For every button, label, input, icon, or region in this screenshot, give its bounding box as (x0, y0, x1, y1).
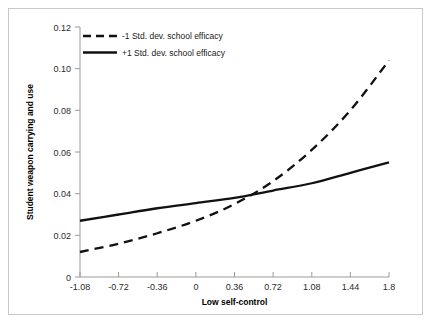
y-tick-label: 0.06 (53, 148, 71, 158)
series-line-plus-1-sd (80, 162, 389, 220)
x-tick-label: 1.44 (342, 282, 360, 292)
y-tick-label: 0.04 (53, 189, 71, 199)
y-tick-label: 0.02 (53, 231, 71, 241)
y-tick-label: 0.08 (53, 106, 71, 116)
x-tick-label: 0 (193, 282, 198, 292)
x-tick-label: 0.72 (264, 282, 282, 292)
x-tick-label: 0.36 (226, 282, 244, 292)
legend-label-minus-1-sd: -1 Std. dev. school efficacy (122, 31, 224, 41)
chart-canvas: 0.12 0.10 0.08 0.06 0.04 0.02 0 -1.08 -0… (0, 0, 432, 324)
y-tick-label: 0.10 (53, 64, 71, 74)
legend: -1 Std. dev. school efficacy +1 Std. dev… (83, 31, 226, 58)
x-tick-label: 1.08 (303, 282, 321, 292)
x-tick-marks (80, 272, 389, 277)
x-tick-label: -0.36 (147, 282, 168, 292)
chart-figure: 0.12 0.10 0.08 0.06 0.04 0.02 0 -1.08 -0… (0, 0, 432, 324)
y-tick-labels: 0.12 0.10 0.08 0.06 0.04 0.02 0 (53, 23, 71, 283)
series-line-minus-1-sd (80, 60, 389, 252)
x-tick-label: 1.8 (383, 282, 396, 292)
legend-label-plus-1-sd: +1 Std. dev. school efficacy (122, 48, 226, 58)
x-tick-label: -0.72 (108, 282, 129, 292)
x-axis-title: Low self-control (202, 297, 268, 307)
y-tick-label: 0.12 (53, 23, 71, 33)
y-tick-label: 0 (66, 273, 71, 283)
y-axis-title: Student weapon carrying and use (25, 84, 35, 220)
y-tick-marks (75, 27, 80, 277)
x-tick-labels: -1.08 -0.72 -0.36 0 0.36 0.72 1.08 1.44 … (70, 282, 396, 292)
x-tick-label: -1.08 (70, 282, 91, 292)
